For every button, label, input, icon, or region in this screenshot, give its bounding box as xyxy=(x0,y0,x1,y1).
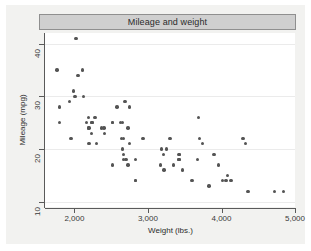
data-point xyxy=(93,116,96,119)
data-point xyxy=(160,147,163,150)
x-tick-label-4000: 4,000 xyxy=(202,214,242,223)
y-tick-label-10: 10 xyxy=(33,201,42,221)
x-tick-label-2000: 2,000 xyxy=(54,214,94,223)
data-point xyxy=(123,100,126,103)
data-point xyxy=(111,121,114,124)
data-point xyxy=(198,137,201,140)
data-point xyxy=(126,126,129,129)
data-point xyxy=(226,174,229,177)
data-point xyxy=(244,142,247,145)
data-point xyxy=(168,137,171,140)
chart-figure: Mileage and weight 10203040 2,0003,0004,… xyxy=(0,0,311,251)
y-tick-label-20: 20 xyxy=(33,149,42,169)
data-point xyxy=(246,190,249,193)
data-point xyxy=(207,184,210,187)
data-point xyxy=(81,68,84,71)
y-axis-line xyxy=(44,33,45,208)
data-point xyxy=(69,137,72,140)
data-point xyxy=(74,37,77,40)
data-point xyxy=(115,105,118,108)
data-point xyxy=(87,142,90,145)
data-point xyxy=(73,95,76,98)
data-point xyxy=(224,179,227,182)
data-point xyxy=(103,132,106,135)
data-point xyxy=(95,142,98,145)
data-point xyxy=(273,190,276,193)
data-point xyxy=(126,163,129,166)
x-tick-mark-4000 xyxy=(222,209,223,213)
gridline-y-20 xyxy=(45,149,295,150)
x-tick-label-5000: 5,000 xyxy=(275,214,311,223)
data-point xyxy=(159,163,162,166)
data-point xyxy=(58,105,61,108)
data-point xyxy=(221,179,224,182)
data-point xyxy=(90,121,93,124)
data-point xyxy=(177,153,180,156)
data-point xyxy=(58,121,61,124)
y-tick-label-30: 30 xyxy=(33,96,42,116)
x-tick-label-3000: 3,000 xyxy=(128,214,168,223)
data-point xyxy=(201,142,204,145)
x-axis-line xyxy=(45,208,296,209)
x-axis-title: Weight (lbs.) xyxy=(45,226,296,235)
data-point xyxy=(172,163,175,166)
data-point xyxy=(121,147,124,150)
data-point xyxy=(190,179,193,182)
data-point xyxy=(181,168,184,171)
data-point xyxy=(141,137,144,140)
data-point xyxy=(100,126,103,129)
data-point xyxy=(111,163,114,166)
data-point xyxy=(87,116,90,119)
data-point xyxy=(72,89,75,92)
x-tick-mark-3000 xyxy=(148,209,149,213)
x-tick-mark-5000 xyxy=(295,209,296,213)
data-point xyxy=(282,190,285,193)
gridline-y-10 xyxy=(45,202,295,203)
data-point xyxy=(177,158,180,161)
data-point xyxy=(128,142,131,145)
chart-title: Mileage and weight xyxy=(128,17,207,27)
gridline-y-40 xyxy=(45,44,295,45)
data-point xyxy=(162,168,165,171)
data-point xyxy=(122,153,125,156)
data-point xyxy=(134,158,137,161)
data-point xyxy=(90,132,93,135)
y-tick-label-40: 40 xyxy=(33,43,42,63)
data-point xyxy=(165,147,168,150)
data-point xyxy=(196,158,199,161)
data-point xyxy=(128,105,131,108)
y-axis-title: Mileage (mpg) xyxy=(18,33,27,207)
data-point xyxy=(122,137,125,140)
x-tick-mark-2000 xyxy=(74,209,75,213)
data-point xyxy=(162,153,165,156)
data-point xyxy=(85,121,88,124)
data-point xyxy=(229,179,232,182)
data-point xyxy=(76,74,79,77)
data-point xyxy=(82,95,85,98)
chart-title-bar: Mileage and weight xyxy=(39,14,296,30)
data-point xyxy=(55,68,58,71)
data-point xyxy=(217,163,220,166)
plot-area xyxy=(45,33,295,207)
data-point xyxy=(134,179,137,182)
data-point xyxy=(212,153,215,156)
data-point xyxy=(87,126,90,129)
data-point xyxy=(197,116,200,119)
data-point xyxy=(68,100,71,103)
data-point xyxy=(241,137,244,140)
